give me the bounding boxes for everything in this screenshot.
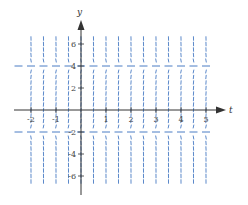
slope-mark [193,70,194,74]
t-tick-label: 3 [153,115,158,124]
slope-mark [193,136,194,140]
slope-mark [43,125,44,129]
y-tick-label: 4 [71,62,76,71]
slope-mark [118,59,119,63]
slope-mark [106,59,107,63]
y-tick-label: 2 [71,84,76,93]
slope-mark [156,136,157,140]
slope-mark [106,125,107,129]
y-axis-arrow-icon [78,20,85,30]
slope-mark [168,59,169,63]
y-tick-label: -2 [68,128,76,137]
t-tick-label: 5 [203,115,208,124]
slope-mark [31,70,32,74]
slope-mark [168,70,169,74]
slope-mark [118,70,119,74]
slope-mark [206,125,207,129]
slope-mark [93,70,94,74]
slope-mark [56,59,57,63]
slope-mark [206,136,207,140]
slope-mark [143,125,144,129]
t-tick-label: 2 [128,115,133,124]
slope-mark [181,70,182,74]
slope-mark [31,125,32,129]
t-axis-arrow-icon [216,107,226,114]
slope-mark [93,59,94,63]
slope-mark [68,59,69,63]
y-tick-label: 6 [71,40,76,49]
y-axis-label: y [76,7,83,17]
slope-mark [93,136,94,140]
slope-mark [131,125,132,129]
slope-mark [156,70,157,74]
slope-mark [118,125,119,129]
t-axis-label: t [229,105,233,115]
slope-mark [56,70,57,74]
slope-mark [43,70,44,74]
slope-mark [131,136,132,140]
y-tick-label: -4 [68,150,76,159]
slope-mark [181,136,182,140]
slope-mark [156,125,157,129]
slope-mark [143,70,144,74]
slope-mark [56,136,57,140]
slope-mark [68,70,69,74]
slope-mark [118,136,119,140]
slope-mark [56,125,57,129]
slope-mark [193,125,194,129]
slope-mark [206,59,207,63]
slope-mark [131,70,132,74]
slope-mark [193,59,194,63]
slope-mark [106,136,107,140]
t-tick-label: 4 [178,115,183,124]
slope-mark [168,125,169,129]
t-tick-label: 1 [103,115,108,124]
slope-mark [181,125,182,129]
slope-mark [131,59,132,63]
slope-mark [31,59,32,63]
slope-mark [43,136,44,140]
slope-mark [143,59,144,63]
slope-mark [31,136,32,140]
t-tick-label: -2 [27,115,35,124]
slope-mark [106,70,107,74]
slope-mark [168,136,169,140]
slope-mark [93,125,94,129]
slope-mark [156,59,157,63]
y-tick-label: -6 [68,172,76,181]
slope-mark [43,59,44,63]
slope-field-diagram: t y -2-112345 642-2-4-6 [0,0,248,205]
slope-mark [181,59,182,63]
slope-mark [206,70,207,74]
slope-mark [143,136,144,140]
t-tick-label: -1 [52,115,60,124]
